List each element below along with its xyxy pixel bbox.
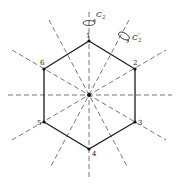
vertex-label-6: 6	[40, 59, 45, 67]
vertex-label-1: 1	[86, 32, 90, 40]
c2-double-prime-rotation: C2″	[117, 30, 141, 43]
vertex-label-5: 5	[37, 119, 41, 127]
c2-double-prime-label: C2″	[132, 32, 141, 43]
vertex-3-dot	[133, 120, 136, 123]
rotation-arrow-icon-2	[117, 30, 130, 41]
vertex-2-dot	[133, 67, 136, 70]
hexagon-symmetry-diagram: 1 2 3 4 5 6 C2′ C2″	[0, 0, 179, 192]
vertex-5-dot	[42, 120, 45, 123]
center-dot	[87, 93, 91, 97]
vertex-label-4: 4	[92, 150, 97, 158]
vertex-6-dot	[42, 67, 45, 70]
c2-prime-label: C2′	[96, 9, 105, 20]
vertex-label-2: 2	[133, 59, 137, 67]
rotation-arrowhead-icon-2	[127, 40, 129, 43]
vertex-4-dot	[87, 147, 90, 150]
c2-prime-rotation: C2′	[83, 9, 105, 26]
vertex-label-3: 3	[138, 119, 142, 127]
